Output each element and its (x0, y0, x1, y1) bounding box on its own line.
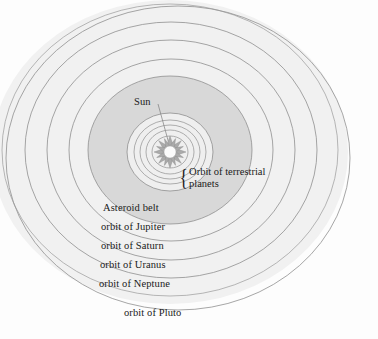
label-orbit-saturn: orbit of Saturn (101, 240, 164, 252)
label-terrestrial-planets-text: Orbit of terrestrial planets (189, 166, 265, 190)
label-asteroid-belt: Asteroid belt (103, 202, 159, 214)
label-orbit-uranus: orbit of Uranus (100, 259, 166, 271)
solar-system-diagram: Sun { Orbit of terrestrial planets Aster… (0, 0, 378, 339)
label-sun: Sun (134, 96, 151, 108)
sun-core (164, 146, 176, 158)
terrestrial-line-1: Orbit of terrestrial (189, 166, 265, 177)
label-terrestrial-planets: { Orbit of terrestrial planets (178, 166, 265, 190)
label-orbit-neptune: orbit of Neptune (99, 278, 170, 290)
curly-brace-icon: { (179, 166, 187, 189)
label-orbit-pluto: orbit of Pluto (124, 307, 181, 319)
terrestrial-line-2: planets (189, 178, 219, 189)
label-orbit-jupiter: orbit of Jupiter (101, 221, 165, 233)
